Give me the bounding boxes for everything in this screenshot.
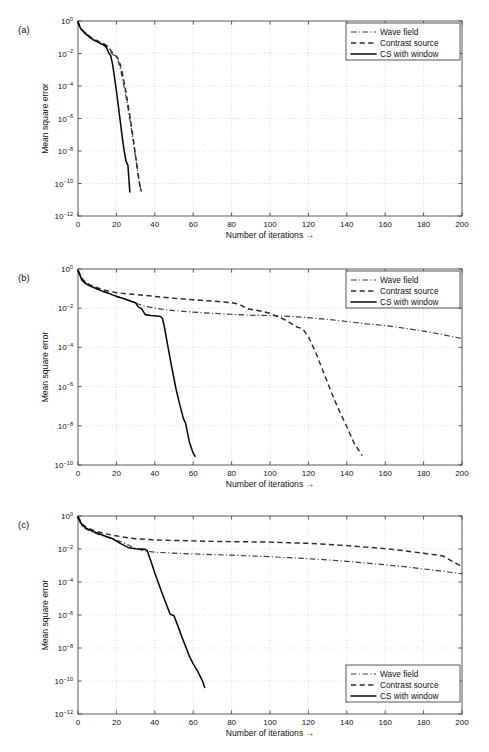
panel-c: (c) 02040608010012014016018020010010−210…	[0, 501, 489, 751]
x-tick-label: 200	[455, 220, 469, 229]
x-tick-label: 120	[302, 220, 316, 229]
series-line-cs-with-window	[78, 22, 130, 192]
x-tick-label: 180	[417, 469, 431, 478]
legend-label: CS with window	[380, 49, 440, 59]
x-tick-label: 140	[340, 220, 354, 229]
y-tick-label: 10−2	[58, 48, 73, 58]
panel-b-label: (b)	[18, 272, 30, 283]
x-axis-title: Number of iterations →	[226, 230, 314, 240]
x-tick-label: 200	[455, 469, 469, 478]
legend-label: Wave field	[380, 275, 419, 285]
x-tick-label: 140	[340, 469, 354, 478]
legend-label: Wave field	[380, 27, 419, 37]
y-tick-label: 10−4	[58, 81, 73, 91]
series-line-contrast-source	[78, 22, 141, 192]
panel-b-chart: 02040608010012014016018020010010−210−410…	[0, 250, 489, 500]
x-tick-label: 40	[150, 469, 159, 478]
y-tick-label: 10−4	[58, 577, 73, 587]
x-tick-label: 80	[227, 469, 236, 478]
series-line-cs-with-window	[78, 270, 195, 456]
y-tick-label: 100	[61, 264, 73, 274]
y-tick-label: 100	[61, 511, 73, 521]
panel-b: (b) 02040608010012014016018020010010−210…	[0, 250, 489, 500]
x-tick-label: 200	[455, 718, 469, 727]
series-line-wave-field	[78, 22, 141, 191]
panel-c-chart: 02040608010012014016018020010010−210−410…	[0, 501, 489, 752]
x-tick-label: 100	[263, 718, 277, 727]
y-tick-label: 10−8	[58, 146, 73, 156]
x-tick-label: 140	[340, 718, 354, 727]
x-tick-label: 160	[379, 469, 393, 478]
y-tick-label: 10−12	[55, 709, 73, 719]
y-tick-label: 10−12	[55, 211, 73, 221]
y-tick-label: 10−2	[58, 544, 73, 554]
series-line-contrast-source	[78, 517, 462, 567]
x-tick-label: 40	[150, 220, 159, 229]
x-tick-label: 0	[76, 220, 81, 229]
x-tick-label: 20	[112, 469, 121, 478]
series-line-cs-with-window	[78, 517, 205, 688]
x-tick-label: 40	[150, 718, 159, 727]
x-tick-label: 120	[302, 469, 316, 478]
y-tick-label: 10−8	[58, 421, 73, 431]
legend-label: Contrast source	[380, 38, 439, 48]
y-tick-label: 10−10	[55, 676, 73, 686]
series-line-wave-field	[78, 519, 462, 574]
x-tick-label: 0	[76, 469, 81, 478]
x-tick-label: 180	[417, 220, 431, 229]
panel-a: (a) 02040608010012014016018020010010−210…	[0, 0, 489, 250]
x-tick-label: 100	[263, 469, 277, 478]
x-tick-label: 180	[417, 718, 431, 727]
y-tick-label: 10−8	[58, 643, 73, 653]
x-tick-label: 160	[379, 718, 393, 727]
legend-label: CS with window	[380, 691, 440, 701]
x-tick-label: 60	[189, 220, 198, 229]
y-tick-label: 10−6	[58, 381, 73, 391]
x-tick-label: 20	[112, 220, 121, 229]
y-tick-label: 10−4	[58, 342, 73, 352]
legend-label: Contrast source	[380, 680, 439, 690]
y-tick-label: 10−6	[58, 610, 73, 620]
y-tick-label: 10−6	[58, 113, 73, 123]
panel-c-label: (c)	[18, 519, 29, 530]
y-axis-title: Mean square error	[40, 580, 50, 651]
x-tick-label: 120	[302, 718, 316, 727]
x-tick-label: 80	[227, 220, 236, 229]
x-tick-label: 160	[379, 220, 393, 229]
panel-a-chart: 02040608010012014016018020010010−210−410…	[0, 0, 489, 250]
figure-convergence-plots: (a) 02040608010012014016018020010010−210…	[0, 0, 489, 752]
y-tick-label: 10−10	[55, 460, 73, 470]
x-axis-title: Number of iterations →	[226, 479, 314, 489]
legend-label: Contrast source	[380, 286, 439, 296]
x-axis-title: Number of iterations →	[226, 728, 314, 738]
y-axis-title: Mean square error	[40, 332, 50, 403]
x-tick-label: 20	[112, 718, 121, 727]
x-tick-label: 0	[76, 718, 81, 727]
legend-label: Wave field	[380, 669, 419, 679]
x-tick-label: 60	[189, 469, 198, 478]
y-axis-title: Mean square error	[40, 83, 50, 154]
x-tick-label: 80	[227, 718, 236, 727]
legend-label: CS with window	[380, 297, 440, 307]
panel-a-label: (a)	[18, 24, 30, 35]
y-tick-label: 10−2	[58, 303, 73, 313]
x-tick-label: 60	[189, 718, 198, 727]
y-tick-label: 10−10	[55, 178, 73, 188]
x-tick-label: 100	[263, 220, 277, 229]
y-tick-label: 100	[61, 16, 73, 26]
